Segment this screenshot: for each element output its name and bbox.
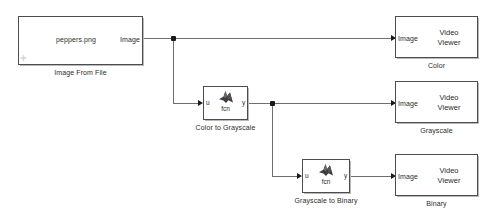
color-to-grayscale-fcn-label: fcn	[203, 105, 248, 113]
video-viewer-color-caption: Color	[395, 61, 478, 70]
image-from-file-output-port-label: Image	[120, 35, 140, 44]
video-viewer-grayscale-title-line1: Video	[424, 93, 474, 103]
video-viewer-grayscale-title-line2: Viewer	[424, 103, 474, 113]
video-viewer-binary-title-line1: Video	[424, 166, 474, 176]
wire-branch-to-fcn1[interactable]	[173, 103, 201, 104]
image-from-file-caption: Image From File	[18, 68, 143, 77]
color-to-grayscale-caption: Color to Grayscale	[183, 123, 268, 132]
grayscale-to-binary-fcn-label: fcn	[302, 178, 350, 186]
wire-source-to-color-viewer[interactable]	[143, 38, 395, 39]
wire-junction-source[interactable]	[171, 36, 176, 41]
wire-source-branch-down[interactable]	[173, 38, 174, 104]
video-viewer-grayscale-input-port-label: Image	[398, 99, 418, 108]
grayscale-to-binary-caption: Grayscale to Binary	[283, 196, 369, 205]
video-viewer-color-title-line2: Viewer	[424, 38, 474, 48]
wire-junction-grayscale[interactable]	[270, 101, 275, 106]
matlab-membrane-icon	[318, 163, 334, 177]
wire-fcn1-branch-down[interactable]	[272, 103, 273, 176]
matlab-membrane-icon	[218, 90, 234, 104]
video-viewer-binary-input-port-label: Image	[398, 172, 418, 181]
video-viewer-grayscale-caption: Grayscale	[395, 126, 478, 135]
video-viewer-binary-title-line2: Viewer	[424, 176, 474, 186]
wire-branch-to-fcn2[interactable]	[272, 176, 300, 177]
wire-fcn2-to-binary-viewer[interactable]	[350, 176, 395, 177]
video-viewer-color-title-line1: Video	[424, 28, 474, 38]
simulink-model-canvas[interactable]: ✚ peppers.png Image Image From File u y …	[0, 0, 501, 222]
image-from-file-filename: peppers.png	[56, 35, 96, 44]
video-viewer-binary-caption: Binary	[395, 199, 478, 208]
block-corner-mark-icon: ✚	[20, 55, 27, 63]
video-viewer-color-input-port-label: Image	[398, 34, 418, 43]
